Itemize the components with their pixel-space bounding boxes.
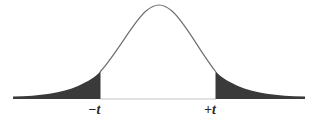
left-critical-label: −t (88, 103, 100, 117)
right-critical-label: +t (204, 103, 216, 117)
left-tail-shaded-region (13, 72, 100, 99)
t-distribution-diagram (0, 0, 314, 120)
right-tail-shaded-region (216, 72, 305, 99)
bell-curve (100, 5, 216, 72)
